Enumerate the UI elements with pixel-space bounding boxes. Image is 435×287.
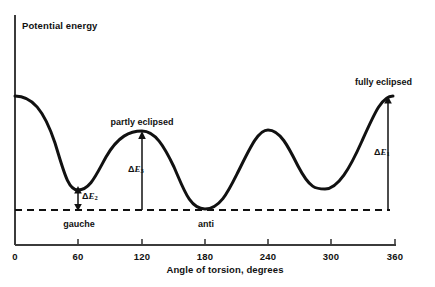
delta-e2-subscript: 2	[94, 194, 97, 201]
chart-plot-area	[0, 0, 435, 287]
x-tick-label-300: 300	[323, 252, 339, 262]
x-tick-label-0: 0	[12, 252, 17, 262]
anti-label: anti	[198, 220, 214, 229]
delta-e3-label: ΔE3	[128, 165, 144, 175]
delta-e3-subscript: 3	[140, 167, 143, 174]
potential-energy-curve	[15, 96, 393, 209]
x-tick-label-120: 120	[134, 252, 150, 262]
delta-e2-label: ΔE2	[82, 192, 98, 202]
x-axis-title: Angle of torsion, degrees	[166, 265, 283, 275]
y-axis-title: Potential energy	[22, 21, 98, 31]
delta-e1-label: ΔE1	[374, 148, 390, 158]
x-tick-label-180: 180	[197, 252, 213, 262]
potential-energy-torsion-chart: Potential energy Angle of torsion, degre…	[0, 0, 435, 287]
x-tick-label-240: 240	[260, 252, 276, 262]
partly-eclipsed-label: partly eclipsed	[110, 118, 173, 127]
delta-e1-subscript: 1	[386, 150, 389, 157]
x-tick-label-60: 60	[73, 252, 84, 262]
fully-eclipsed-label: fully eclipsed	[355, 78, 412, 87]
gauche-label: gauche	[63, 220, 95, 229]
x-tick-label-360: 360	[387, 252, 403, 262]
